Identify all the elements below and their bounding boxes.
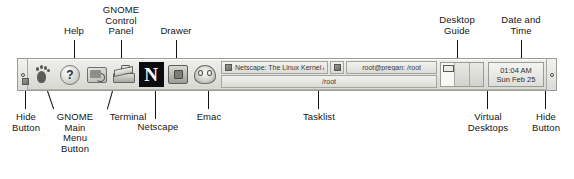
- leader-help: [74, 40, 75, 58]
- task-title: root@pregan: /root: [362, 64, 421, 71]
- task-title: /root: [322, 78, 336, 85]
- emacs-launcher[interactable]: [192, 62, 218, 88]
- tasklist: Netscape: The Linux Kernel Archi root@pr…: [221, 61, 437, 88]
- drawer-icon: [168, 65, 188, 84]
- hide-button-right[interactable]: [546, 59, 556, 90]
- task-title: Netscape: The Linux Kernel Archi: [235, 64, 324, 71]
- callout-hide-button-left: Hide Button: [5, 112, 47, 133]
- control-panel-launcher[interactable]: [111, 62, 137, 88]
- drawer-launcher[interactable]: [165, 62, 191, 88]
- launcher-group: ? N: [28, 59, 220, 90]
- leader-date-and-time: [521, 40, 522, 58]
- desktop-guide[interactable]: [440, 62, 484, 87]
- hide-button-dot-icon: [21, 73, 25, 77]
- desktop-3[interactable]: [470, 63, 483, 86]
- leader-tasklist: [318, 91, 319, 109]
- task-root[interactable]: /root: [221, 75, 437, 88]
- terminal-icon: [87, 67, 107, 83]
- hide-button-left[interactable]: [18, 59, 28, 90]
- window-icon: [334, 64, 341, 71]
- emacs-icon: [194, 65, 216, 84]
- tasklist-row: /root: [221, 75, 437, 88]
- netscape-n-icon: N: [139, 62, 164, 87]
- leader-gnome-control-panel: [121, 40, 122, 58]
- clock-date: Sun Feb 25: [497, 75, 536, 84]
- leader-terminal: [107, 91, 113, 110]
- leader-netscape: [155, 91, 156, 119]
- leader-hide-button-left: [25, 91, 26, 109]
- toolbox-icon: [113, 66, 135, 83]
- netscape-launcher[interactable]: N: [138, 62, 164, 88]
- leader-hide-button-right: [545, 91, 546, 109]
- task-icon-only[interactable]: [330, 61, 344, 74]
- callout-gnome-main-menu-button: GNOME Main Menu Button: [47, 112, 103, 154]
- clock-applet[interactable]: 01:04 AM Sun Feb 25: [488, 62, 544, 87]
- callout-netscape: Netscape: [132, 122, 184, 133]
- gnome-main-menu-button[interactable]: [30, 62, 56, 88]
- callout-help: Help: [52, 26, 96, 37]
- terminal-launcher[interactable]: [84, 62, 110, 88]
- tasklist-row: Netscape: The Linux Kernel Archi root@pr…: [221, 61, 437, 74]
- callout-hide-button-right: Hide Button: [524, 112, 568, 133]
- clock-time: 01:04 AM: [500, 66, 532, 75]
- callout-emac: Emac: [188, 112, 230, 123]
- leader-virtual-desktops: [487, 91, 488, 109]
- netscape-window-icon: [225, 64, 232, 71]
- leader-emac: [208, 91, 209, 109]
- callout-tasklist: Tasklist: [296, 112, 342, 123]
- help-launcher[interactable]: ?: [57, 62, 83, 88]
- hide-button-dot-icon: [550, 73, 554, 77]
- callout-desktop-guide: Desktop Guide: [430, 15, 484, 36]
- gnome-panel: ? N: [17, 58, 557, 91]
- callout-gnome-control-panel: GNOME Control Panel: [94, 5, 148, 37]
- window-thumbnail-icon: [443, 65, 454, 72]
- question-mark-icon: ?: [60, 65, 80, 85]
- diagram-canvas: Help GNOME Control Panel Drawer Desktop …: [0, 0, 574, 179]
- callout-virtual-desktops: Virtual Desktops: [460, 112, 516, 133]
- leader-desktop-guide: [457, 40, 458, 58]
- callout-drawer: Drawer: [150, 26, 202, 37]
- gnome-foot-icon: [33, 65, 53, 85]
- task-terminal[interactable]: root@pregan: /root: [346, 61, 437, 74]
- desktop-2[interactable]: [455, 63, 469, 86]
- callout-date-and-time: Date and Time: [492, 15, 550, 36]
- task-netscape[interactable]: Netscape: The Linux Kernel Archi: [221, 61, 328, 74]
- leader-gnome-main-menu-button: [47, 91, 54, 109]
- desktop-1[interactable]: [441, 63, 455, 86]
- leader-drawer: [176, 40, 177, 58]
